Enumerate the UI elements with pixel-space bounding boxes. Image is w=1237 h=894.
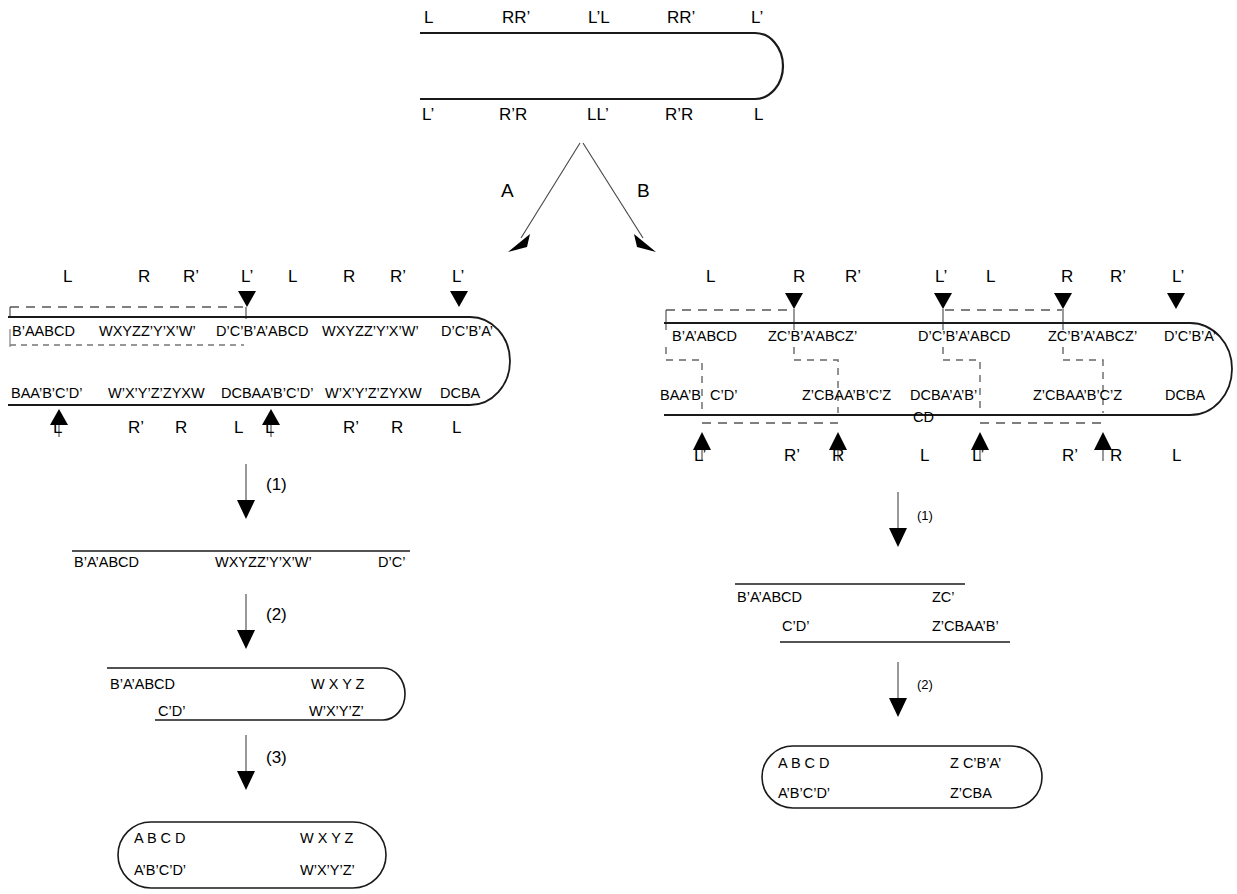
left-step1-label: (1) [266,475,287,495]
left-step3-top-seq-0: A B C D [134,830,186,847]
top-construct-top-label-3: RR’ [667,9,695,26]
right-step1-arrow-head [889,528,907,547]
right-top-label-1: R [793,268,805,285]
branch-label-b: B [637,180,650,202]
right-step1-top-seq-1: ZC’ [932,589,955,606]
left-nick-down-arrow-0 [238,291,256,307]
right-bottom-label-0: L’ [694,447,706,464]
right-top-label-2: R’ [845,268,861,285]
left-step3-top-seq-1: W X Y Z [300,830,353,847]
left-top-label-1: R [138,268,150,285]
right-bottom-seq-0: BAA’B [660,387,701,404]
right-top-label-7: L’ [1172,268,1184,285]
left-step1-arrow [0,462,400,552]
left-top-seq-0: B’AABCD [12,323,75,340]
right-step2-bottom-seq-0: A’B’C’D’ [778,785,830,802]
right-nick-down-arrow-2 [1054,293,1072,309]
right-step1-top-seq-0: B’A’ABCD [737,589,802,606]
right-step2-top-seq-0: A B C D [778,755,830,772]
right-step2-label: (2) [917,677,933,692]
right-step2-product-lines [640,742,1140,842]
right-step1-bottom-seq-1: Z’CBAA’B’ [932,618,999,635]
left-bottom-seq-0: BAA’B’C’D’ [11,385,82,402]
left-nick-down-arrow-1 [450,291,468,307]
right-bottom-seq-5: DCBA [1165,387,1205,404]
top-construct-bottom-label-3: R’R [665,106,693,123]
branch-arrow-a-line [521,143,580,238]
top-construct-bottom-label-2: LL’ [587,106,609,123]
right-bottom-label-2: R [832,447,844,464]
left-bottom-seq-1: W’X’Y’Z’ZYXW [108,385,205,402]
right-top-seq-3: ZC’B’A’ABCZ’ [1048,328,1137,345]
right-bottom-label-7: L [1172,447,1181,464]
top-construct-top-label-0: L [424,9,433,26]
right-bottom-label-5: R’ [1062,447,1078,464]
left-step3-bottom-seq-1: W’X’Y’Z’ [300,862,355,879]
top-construct-lines [0,0,1237,140]
right-nick-down-arrow-0 [785,293,803,309]
left-step3-label: (3) [266,748,287,768]
left-bottom-label-4: L’ [265,419,277,436]
right-step1-label: (1) [917,508,933,523]
right-bottom-seq-extra: CD [913,409,934,426]
top-construct-bottom-label-4: L [754,106,763,123]
right-bottom-seq-4: Z’CBAA’B’C’Z [1033,387,1122,404]
left-step2-top-seq-0: B’A’ABCD [110,676,175,693]
left-top-label-0: L [63,268,72,285]
left-bottom-label-1: R’ [128,419,144,436]
right-step2-top-seq-1: Z C’B’A’ [950,755,1001,772]
left-top-label-2: R’ [183,268,199,285]
branch-arrow-b-line [583,143,643,238]
right-bottom-label-1: R’ [784,447,800,464]
right-step2-bottom-seq-1: Z’CBA [950,785,992,802]
branch-arrow-a-head [508,234,530,252]
left-step1-seq-1: WXYZZ’Y’X’W’ [215,554,312,571]
left-step3-arrow-head [237,771,255,790]
left-step2-bottom-seq-1: W’X’Y’Z’ [309,703,364,720]
right-bottom-label-4: L’ [972,447,984,464]
branch-label-a: A [501,180,514,202]
right-step2-arrow [640,660,1140,750]
branch-arrow-b-head [634,234,656,252]
right-top-label-4: L [986,268,995,285]
left-top-label-3: L’ [241,268,253,285]
right-top-label-5: R [1061,268,1073,285]
left-top-label-5: R [343,268,355,285]
right-step1-arrow [640,490,1140,580]
right-bottom-seq-2: Z’CBAA’B’C’Z [802,387,891,404]
left-bottom-label-7: L [452,419,461,436]
left-top-label-4: L [288,268,297,285]
right-bottom-seq-1: C’D’ [710,387,737,404]
left-step1-seq-0: B’A’ABCD [74,554,139,571]
left-step2-label: (2) [266,605,287,625]
right-bottom-label-3: L [920,447,929,464]
left-step3-arrow [0,733,400,823]
top-construct-bottom-label-1: R’R [499,106,527,123]
left-top-label-7: L’ [452,268,464,285]
right-top-label-3: L’ [935,268,947,285]
right-top-seq-0: B’A’ABCD [672,328,737,345]
left-step3-bottom-seq-0: A’B’C’D’ [134,862,186,879]
left-bottom-label-6: R [391,419,403,436]
left-top-seq-1: WXYZZ’Y’X’W’ [99,323,196,340]
left-top-seq-3: WXYZZ’Y’X’W’ [322,323,419,340]
left-step1-seq-2: D’C’ [378,554,405,571]
right-step1-bottom-seq-0: C’D’ [782,618,809,635]
right-nick-down-arrow-3 [1167,293,1185,309]
left-bottom-label-5: R’ [343,419,359,436]
branch-arrow-lines [0,138,1237,258]
right-top-label-6: R’ [1110,268,1126,285]
left-step3-product-lines [0,818,500,894]
left-bottom-label-2: R [175,419,187,436]
right-top-label-0: L [706,268,715,285]
top-construct-top-label-1: RR’ [502,9,530,26]
right-top-seq-4: D’C’B’A’ [1164,328,1216,345]
left-bottom-label-0: L’ [53,419,65,436]
left-top-seq-2: D’C’B’A’ABCD [216,323,308,340]
right-top-seq-1: ZC’B’A’ABCZ’ [768,328,857,345]
left-step1-arrow-head [237,500,255,519]
left-step2-top-seq-1: W X Y Z [311,676,364,693]
left-top-seq-4: D’C’B’A’ [441,323,493,340]
top-construct-top-label-4: L’ [751,9,763,26]
top-construct-top-label-2: L’L [588,9,610,26]
